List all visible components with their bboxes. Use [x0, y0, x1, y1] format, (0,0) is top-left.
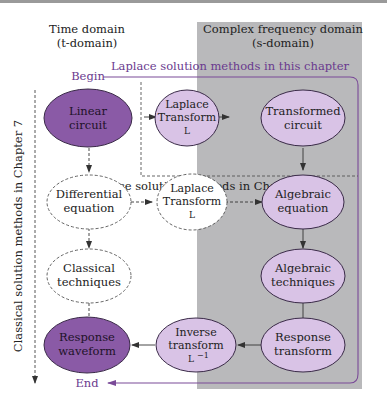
node-response-waveform: Response waveform — [44, 317, 130, 373]
svg-text:equation: equation — [63, 201, 115, 215]
time-domain-subheader: (t-domain) — [57, 36, 118, 50]
freq-domain-subheader: (s-domain) — [252, 36, 314, 50]
time-domain-header: Time domain — [49, 22, 125, 36]
svg-text:circuit: circuit — [284, 118, 322, 132]
node-differential-equation: Differential equation — [47, 175, 131, 229]
classical-chapter7-label: Classical solution methods in Chapter 7 — [11, 120, 25, 352]
svg-text:−1: −1 — [197, 351, 209, 360]
node-transformed-circuit: Transformed circuit — [261, 90, 345, 146]
node-classical-techniques: Classical techniques — [47, 249, 131, 303]
node-algebraic-equation: Algebraic equation — [262, 175, 344, 229]
svg-text:waveform: waveform — [58, 344, 116, 358]
svg-text:Differential: Differential — [56, 187, 123, 201]
svg-text:Response: Response — [275, 330, 331, 344]
diagram-canvas: Time domain (t-domain) Complex frequency… — [0, 0, 387, 411]
laplace-this-chapter-label: Laplace solution methods in this chapter — [111, 59, 350, 73]
svg-text:L: L — [189, 210, 195, 220]
node-linear-circuit: Linear circuit — [44, 89, 132, 147]
flow-diagram: Time domain (t-domain) Complex frequency… — [0, 0, 387, 411]
svg-text:transform: transform — [274, 344, 332, 358]
svg-text:L: L — [188, 354, 194, 364]
svg-text:L: L — [184, 126, 190, 136]
node-laplace-transform-mid: Laplace Transform L — [157, 174, 227, 230]
svg-text:Inverse: Inverse — [175, 326, 217, 339]
svg-text:Linear: Linear — [69, 104, 107, 118]
node-laplace-transform-top: Laplace Transform L — [155, 90, 219, 146]
svg-text:techniques: techniques — [271, 275, 335, 289]
svg-text:Transformed: Transformed — [265, 104, 341, 118]
svg-text:Algebraic: Algebraic — [274, 187, 331, 201]
node-algebraic-techniques: Algebraic techniques — [261, 249, 345, 303]
svg-text:circuit: circuit — [69, 118, 107, 132]
svg-text:Laplace: Laplace — [170, 182, 214, 195]
svg-text:Algebraic: Algebraic — [274, 261, 331, 275]
svg-text:Classical: Classical — [63, 261, 115, 275]
top-rule — [0, 0, 387, 3]
svg-text:equation: equation — [277, 201, 329, 215]
begin-label: Begin — [71, 69, 105, 83]
svg-text:Transform: Transform — [163, 195, 222, 208]
node-response-transform: Response transform — [261, 318, 345, 372]
svg-text:techniques: techniques — [57, 275, 121, 289]
svg-text:Response: Response — [59, 330, 115, 344]
end-label: End — [75, 376, 99, 390]
svg-text:Laplace: Laplace — [165, 98, 209, 111]
freq-domain-header: Complex frequency domain — [203, 22, 363, 36]
node-inverse-transform: Inverse transform L −1 — [156, 318, 236, 372]
svg-text:Transform: Transform — [158, 111, 217, 124]
